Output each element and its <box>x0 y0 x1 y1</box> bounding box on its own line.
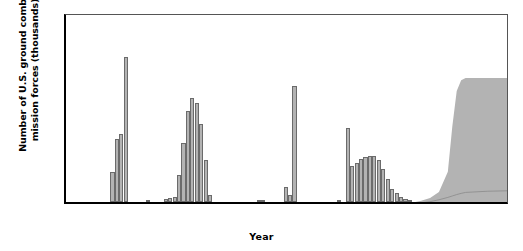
x-tick-mark <box>155 202 156 204</box>
plot-area: 0200400600800 194019601980200020202040 <box>64 14 508 204</box>
forecast-median-line <box>66 15 507 202</box>
bar <box>408 200 412 202</box>
bar <box>146 200 150 202</box>
y-tick-mark <box>64 63 66 64</box>
y-tick-label: 0 <box>64 200 66 205</box>
bar <box>124 57 128 202</box>
bar <box>208 195 212 202</box>
chart-container: Number of U.S. ground combat mission for… <box>0 0 523 251</box>
bar <box>337 200 341 202</box>
plot-inner: 0200400600800 194019601980200020202040 <box>66 15 507 202</box>
y-tick-mark <box>64 110 66 111</box>
median-line-shape <box>403 191 508 204</box>
bar <box>261 200 265 202</box>
x-tick-mark <box>421 202 422 204</box>
x-axis-label: Year <box>0 231 523 242</box>
y-tick-mark <box>64 158 66 159</box>
x-tick-mark <box>244 202 245 204</box>
y-axis-label: Number of U.S. ground combat mission for… <box>17 0 41 165</box>
y-tick-label: 800 <box>64 14 66 21</box>
x-tick-mark <box>332 202 333 204</box>
bar <box>292 86 296 202</box>
